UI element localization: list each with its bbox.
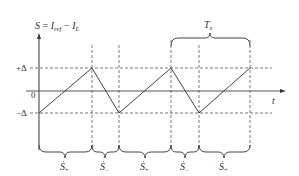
segment-labels: Ṡ+ Ṡ− Ṡ+ Ṡ− Ṡ+ bbox=[60, 161, 228, 173]
t-axis-arrow-icon bbox=[280, 89, 286, 93]
time-axis-label: t bbox=[272, 95, 275, 106]
switching-surface-diagram: S = Iref − IL +Δ 0 −Δ t Ts Ṡ+ Ṡ− Ṡ+ Ṡ− Ṡ… bbox=[0, 0, 299, 176]
segment-braces bbox=[39, 145, 250, 158]
svg-text:Ṡ−: Ṡ− bbox=[100, 161, 109, 173]
plus-delta-label: +Δ bbox=[16, 63, 27, 73]
switching-instant-lines bbox=[92, 40, 250, 150]
svg-text:Ṡ−: Ṡ− bbox=[180, 161, 189, 173]
period-label: Ts bbox=[204, 19, 213, 32]
surface-definition-label: S = Iref − IL bbox=[35, 20, 80, 33]
minus-delta-label: −Δ bbox=[16, 108, 27, 118]
zero-label: 0 bbox=[31, 90, 36, 100]
period-brace bbox=[171, 33, 250, 46]
svg-text:Ṡ+: Ṡ+ bbox=[219, 161, 228, 173]
s-axis-arrow-icon bbox=[37, 33, 41, 39]
svg-text:Ṡ+: Ṡ+ bbox=[140, 161, 149, 173]
svg-text:Ṡ+: Ṡ+ bbox=[60, 161, 69, 173]
